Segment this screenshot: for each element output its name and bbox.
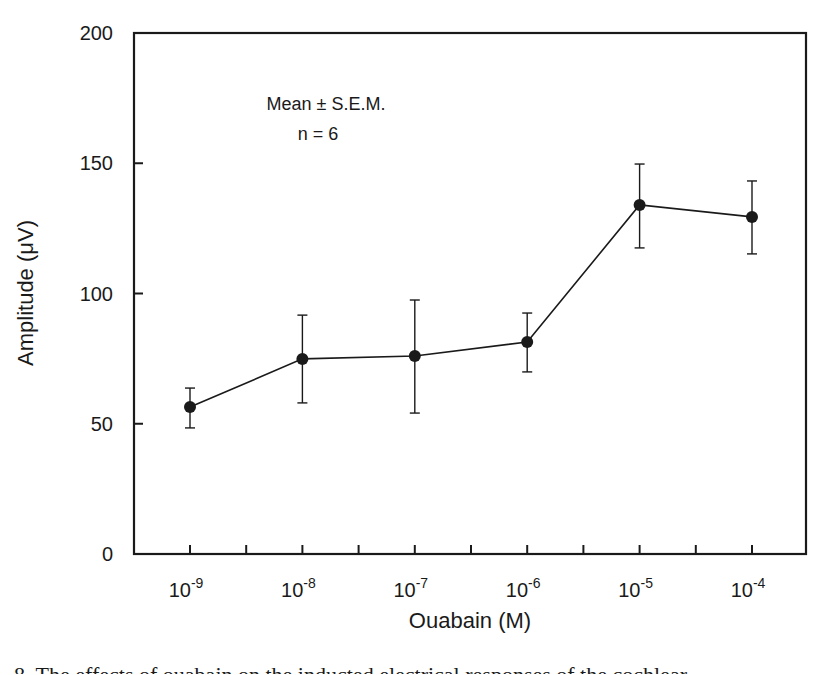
data-point-marker <box>296 353 308 365</box>
y-tick-label: 0 <box>102 543 113 565</box>
y-tick-label: 200 <box>80 22 113 44</box>
annotation-mean-sem: Mean ± S.E.M. <box>267 94 386 114</box>
figure-caption: 8. The effects of ouabain on the inducte… <box>14 660 834 674</box>
x-axis-label: Ouabain (M) <box>409 608 531 633</box>
data-series <box>184 164 758 428</box>
y-tick-label: 150 <box>80 152 113 174</box>
x-tick-label: 10-7 <box>393 575 428 601</box>
y-tick-label: 100 <box>80 283 113 305</box>
x-tick-label: 10-8 <box>281 575 316 601</box>
y-tick-label: 50 <box>91 413 113 435</box>
data-point-marker <box>634 199 646 211</box>
x-tick-label: 10-6 <box>506 575 541 601</box>
x-tick-label: 10-4 <box>731 575 766 601</box>
data-point-marker <box>184 401 196 413</box>
axes: 05010015020010-910-810-710-610-510-4 <box>80 22 806 601</box>
data-point-marker <box>409 350 421 362</box>
data-point-marker <box>521 336 533 348</box>
data-point-marker <box>746 211 758 223</box>
x-tick-label: 10-5 <box>618 575 653 601</box>
y-axis-label: Amplitude (μV) <box>13 220 38 366</box>
annotation-n: n = 6 <box>298 124 339 144</box>
plot-frame <box>134 33 806 554</box>
x-tick-label: 10-9 <box>169 575 204 601</box>
series-line <box>190 205 752 407</box>
